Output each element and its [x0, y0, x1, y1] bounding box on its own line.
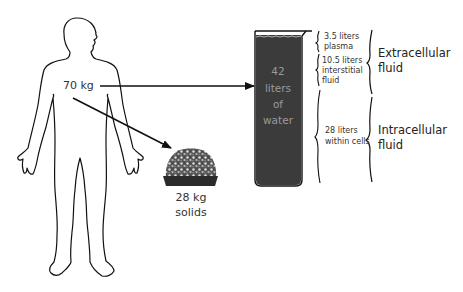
interstitial-name-line-2: fluid: [322, 77, 339, 85]
interstitial-volume: 10.5 liters: [322, 57, 362, 65]
compartment-braces: [315, 31, 320, 183]
water-volume-line: 42: [256, 66, 300, 77]
intracellular-label-line-1: Intracellular: [378, 125, 447, 137]
intracellular-label-line-2: fluid: [378, 140, 403, 152]
extracellular-label-line-2: fluid: [378, 63, 403, 75]
arrow-to-solids: [73, 98, 171, 148]
solids-pile-icon: [163, 148, 218, 186]
human-body-outline-icon: [18, 18, 143, 276]
plasma-name: plasma: [324, 43, 353, 51]
plasma-volume: 3.5 liters: [324, 33, 359, 41]
water-unit-line: liters: [256, 83, 300, 94]
intracellular-volume: 28 liters: [325, 127, 358, 135]
extracellular-label-line-1: Extracellular: [378, 48, 450, 60]
solids-name-label: solids: [161, 207, 221, 218]
solids-weight-label: 28 kg: [161, 192, 221, 203]
group-braces: [366, 30, 372, 182]
body-weight-label: 70 kg: [63, 80, 94, 91]
intracellular-name: within cells: [325, 138, 370, 146]
interstitial-name-line-1: interstitial: [322, 67, 363, 75]
water-of-line: of: [256, 99, 300, 110]
water-name-line: water: [256, 115, 300, 126]
